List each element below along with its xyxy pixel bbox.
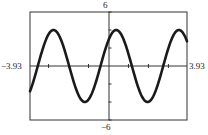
y-min-label: −6 — [101, 123, 111, 132]
x-min-label: −3.93 — [1, 62, 22, 71]
x-max-label: 3.93 — [189, 62, 205, 71]
y-max-label: 6 — [103, 1, 108, 10]
chart-plot — [0, 0, 208, 135]
